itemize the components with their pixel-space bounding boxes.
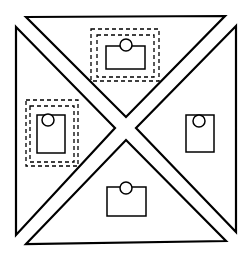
pin-icon bbox=[120, 182, 132, 194]
quadrant-diagram bbox=[0, 0, 248, 257]
pin-icon bbox=[42, 114, 54, 126]
pin-icon bbox=[120, 39, 132, 51]
pin-icon bbox=[193, 115, 205, 127]
